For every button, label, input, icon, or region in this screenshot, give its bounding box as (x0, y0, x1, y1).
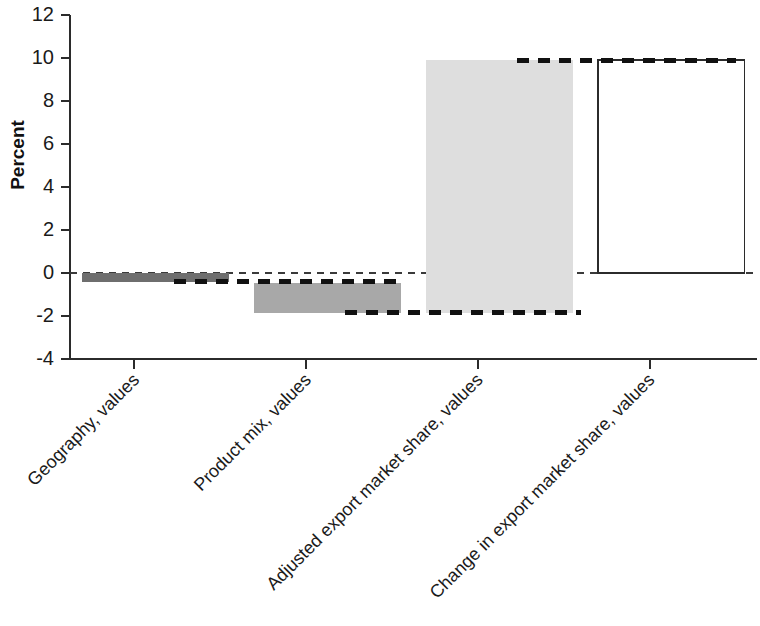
y-tick-label: -4 (36, 347, 54, 369)
y-tick-label: 2 (43, 218, 54, 240)
y-tick-label: 10 (32, 46, 54, 68)
y-tick-label: 4 (43, 175, 54, 197)
y-tick-label: 0 (43, 261, 54, 283)
bar (598, 60, 745, 273)
waterfall-chart: Percent 121086420-2-4 Geography, valuesP… (0, 0, 760, 626)
bar (82, 273, 229, 282)
bar (426, 60, 573, 313)
y-tick-label: 12 (32, 3, 54, 25)
bar (254, 283, 401, 313)
chart-canvas: Percent 121086420-2-4 Geography, valuesP… (0, 0, 760, 626)
y-tick-label: 8 (43, 89, 54, 111)
y-tick-label: 6 (43, 132, 54, 154)
y-axis-title: Percent (7, 119, 28, 189)
y-tick-label: -2 (36, 304, 54, 326)
